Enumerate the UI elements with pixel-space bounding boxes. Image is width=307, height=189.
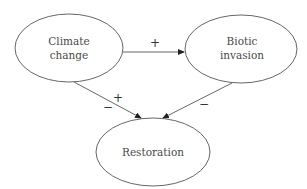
node-ellipse [15, 14, 123, 82]
node-climate-change: Climate change [15, 14, 123, 82]
node-label: Climate [48, 35, 89, 47]
node-label: Restoration [122, 146, 184, 158]
sign-plus: + [150, 36, 160, 50]
sign-minus: − [103, 100, 113, 114]
edge-climate-to-restoration: + − [74, 82, 141, 118]
sign-minus: − [199, 97, 209, 111]
edge-climate-to-biotic: + [123, 36, 184, 52]
node-label: Biotic [227, 35, 258, 47]
edge-biotic-to-restoration: − [163, 83, 232, 118]
node-label: invasion [220, 49, 264, 61]
node-label: change [50, 49, 89, 61]
sign-plus: + [113, 91, 123, 105]
node-restoration: Restoration [96, 118, 210, 186]
arrow-biotic-restoration [163, 83, 232, 118]
node-biotic-invasion: Biotic invasion [185, 15, 297, 83]
causal-diagram: + + − − Climate change Biotic invasion R… [0, 0, 307, 189]
